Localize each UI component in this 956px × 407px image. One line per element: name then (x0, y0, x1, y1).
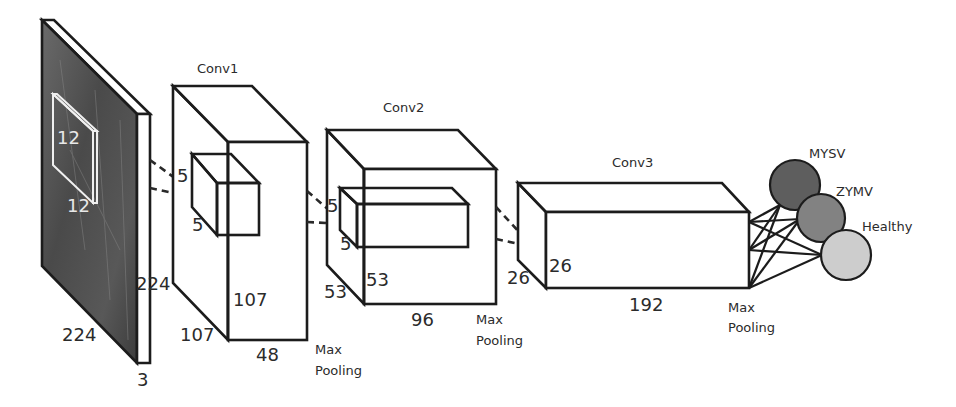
conv2-depth-label: 53 (324, 281, 347, 302)
conv3-front-face (546, 212, 749, 288)
conv3-pool-label-line2: Pooling (728, 320, 775, 335)
input-image-slab: 12 12 224 224 3 (42, 20, 170, 390)
conv1-kernel-label-a: 5 (177, 165, 188, 186)
conv1-width-label: 48 (256, 344, 279, 365)
input-width-label: 224 (62, 324, 96, 345)
conv1-pool-label-line1: Max (315, 342, 342, 357)
conv2-width-label: 96 (411, 309, 434, 330)
conv2-pool-label-line2: Pooling (476, 333, 523, 348)
conv3-top-face (518, 183, 749, 212)
output-nodes: MYSV ZYMV Healthy (770, 146, 913, 280)
cnn-architecture-diagram: 12 12 224 224 3 Conv1 5 5 107 107 48 Max… (0, 0, 956, 407)
conv2-title: Conv2 (383, 100, 424, 115)
conv2-kernel-label-a: 5 (327, 195, 338, 216)
input-height-label: 224 (136, 273, 170, 294)
conv3-pool-label-line1: Max (728, 300, 755, 315)
conv1-depth-label: 107 (180, 324, 214, 345)
conv1-height-label: 107 (233, 289, 267, 310)
conv2-height-label: 53 (366, 269, 389, 290)
conv3-depth-label: 26 (507, 267, 530, 288)
conv1-kernel-label-b: 5 (192, 214, 203, 235)
patch-label-b: 12 (67, 195, 90, 216)
output-label-mysv: MYSV (809, 146, 845, 161)
output-label-healthy: Healthy (862, 219, 913, 234)
conv2-block: Conv2 5 5 53 53 96 Max Pooling (324, 100, 523, 348)
output-node-healthy (821, 230, 871, 280)
input-slab-side (137, 114, 150, 363)
conv3-block: Conv3 26 26 192 Max Pooling (507, 155, 775, 335)
conv3-title: Conv3 (612, 155, 653, 170)
conv2-kernel-label-b: 5 (340, 233, 351, 254)
conv3-height-label: 26 (549, 255, 572, 276)
conv3-width-label: 192 (629, 294, 663, 315)
patch-label-a: 12 (57, 127, 80, 148)
conv1-title: Conv1 (197, 61, 238, 76)
conv2-pool-label-line1: Max (476, 312, 503, 327)
conv1-pool-label-line2: Pooling (315, 363, 362, 378)
output-label-zymv: ZYMV (836, 184, 873, 199)
input-depth-label: 3 (137, 369, 148, 390)
conv1-front-face (228, 142, 307, 340)
